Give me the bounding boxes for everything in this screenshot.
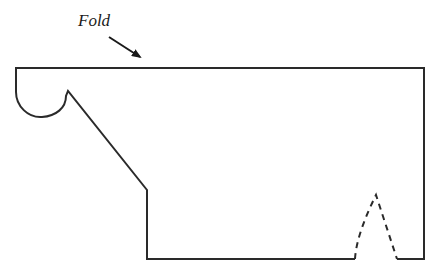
dart-dashed [355, 195, 397, 259]
pattern-outline-left [16, 68, 355, 259]
fold-label: Fold [77, 11, 111, 30]
pattern-outline-right [397, 68, 424, 259]
pattern-diagram: Fold [0, 0, 435, 276]
fold-arrow-icon [109, 37, 140, 57]
